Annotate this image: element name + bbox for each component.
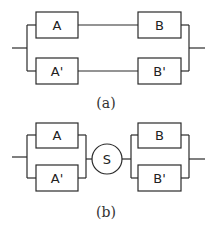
block-label: B bbox=[155, 128, 164, 143]
block-label: B bbox=[155, 18, 164, 33]
block-label: B' bbox=[153, 171, 166, 186]
diagram-canvas: A A' B B' (a) A A' bbox=[0, 0, 214, 233]
block-label: A bbox=[53, 128, 62, 143]
block-label: A bbox=[53, 18, 62, 33]
block-label: B' bbox=[153, 64, 166, 79]
diagram-a: A A' B B' (a) bbox=[12, 12, 205, 111]
caption-a: (a) bbox=[96, 95, 115, 111]
block-label: A' bbox=[51, 64, 63, 79]
caption-b: (b) bbox=[96, 204, 116, 220]
diagram-b: A A' S B B' (b) bbox=[12, 123, 205, 220]
block-label: A' bbox=[51, 171, 63, 186]
switch-label: S bbox=[103, 152, 111, 167]
